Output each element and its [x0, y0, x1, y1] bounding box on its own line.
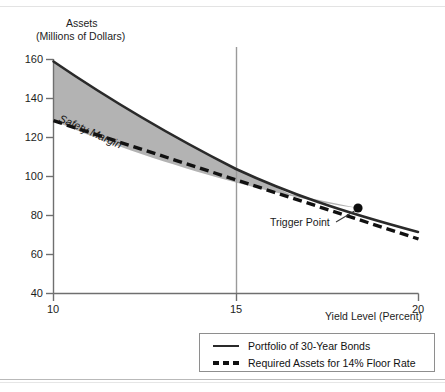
chart-legend: Portfolio of 30-Year Bonds Required Asse…: [199, 333, 435, 372]
legend-solid-line-icon: [213, 340, 239, 352]
trigger-point-annotation: Trigger Point: [270, 216, 330, 228]
page-bottom-rule: [0, 379, 445, 380]
x-tick-label-15: 15: [221, 303, 251, 315]
y-axis-ticks: [46, 60, 54, 294]
chart-page: Assets (Millions of Dollars): [0, 0, 445, 392]
legend-item-required-assets: Required Assets for 14% Floor Rate: [213, 354, 434, 371]
page-bottom-rule-secondary: [0, 382, 445, 383]
y-tick-label-40: 40: [17, 287, 43, 299]
trigger-point-marker: [353, 203, 362, 212]
y-tick-label-100: 100: [17, 170, 43, 182]
series-portfolio-30-year-bonds: [54, 62, 419, 233]
y-tick-label-60: 60: [17, 248, 43, 260]
x-tick-label-10: 10: [38, 303, 68, 315]
legend-label-portfolio: Portfolio of 30-Year Bonds: [248, 340, 370, 352]
legend-dashed-line-icon: [213, 357, 239, 369]
y-tick-label-160: 160: [17, 53, 43, 65]
y-tick-label-80: 80: [17, 209, 43, 221]
y-tick-label-140: 140: [17, 92, 43, 104]
y-tick-label-120: 120: [17, 131, 43, 143]
legend-item-portfolio: Portfolio of 30-Year Bonds: [213, 337, 434, 354]
x-axis-ticks: [54, 294, 419, 302]
x-axis-title: Yield Level (Percent): [325, 310, 422, 323]
legend-label-required-assets: Required Assets for 14% Floor Rate: [248, 357, 416, 369]
